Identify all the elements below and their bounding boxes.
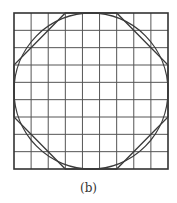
inscribed-circle	[14, 13, 168, 169]
grid-circle-octagon-diagram	[0, 0, 177, 203]
octagon	[14, 13, 168, 169]
figure-caption: (b)	[0, 180, 177, 196]
square-border	[14, 13, 168, 169]
grid-lines	[14, 13, 168, 169]
